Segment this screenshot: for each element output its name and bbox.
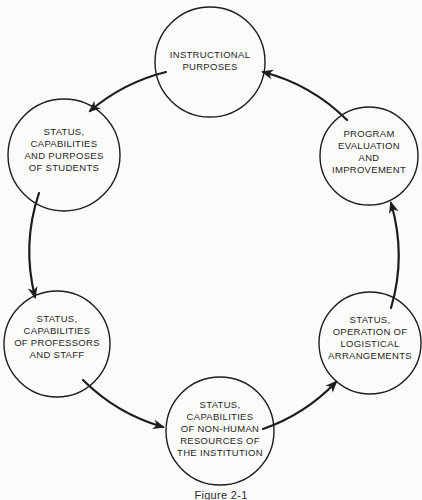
arrow-non-human-to-logistical — [263, 382, 336, 429]
arrow-professors-to-non-human — [83, 380, 163, 427]
node-label-non-human-resources: STATUS, CAPABILITIES OF NON-HUMAN RESOUR… — [177, 399, 263, 459]
arrow-program-eval-to-instructional — [263, 72, 347, 120]
arrow-students-to-professors — [29, 193, 39, 297]
arrow-instructional-to-students — [90, 72, 166, 111]
cycle-diagram-page: INSTRUCTIONAL PURPOSES STATUS, CAPABILIT… — [0, 0, 422, 500]
node-label-program-evaluation: PROGRAM EVALUATION AND IMPROVEMENT — [332, 128, 406, 176]
arrow-logistical-to-program-eval — [391, 203, 399, 308]
figure-caption: Figure 2-1 — [194, 489, 247, 500]
node-label-logistical-arrangements: STATUS, OPERATION OF LOGISTICAL ARRANGEM… — [328, 314, 412, 362]
node-label-professors-staff: STATUS, CAPABILITIES OF PROFESSORS AND S… — [14, 313, 100, 361]
node-label-students: STATUS, CAPABILITIES AND PURPOSES OF STU… — [24, 126, 103, 174]
node-label-instructional-purposes: INSTRUCTIONAL PURPOSES — [170, 49, 250, 73]
